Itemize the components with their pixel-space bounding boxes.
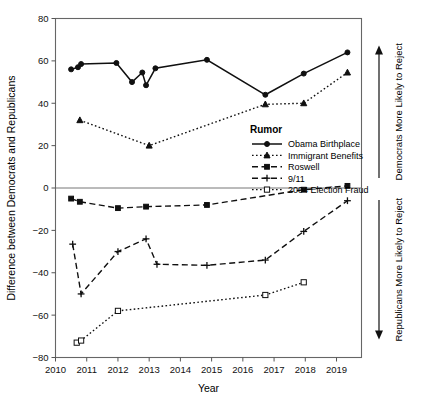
legend-entry[interactable]: Obama Birthplace bbox=[252, 139, 360, 149]
x-tick-label: 2017 bbox=[264, 364, 285, 375]
data-point-marker bbox=[265, 164, 270, 169]
data-point-marker bbox=[153, 66, 158, 71]
y-tick-label: 60 bbox=[38, 55, 49, 66]
upper-arrow-label: Democrats More Likely to Reject bbox=[393, 43, 404, 181]
data-point-marker bbox=[301, 280, 306, 285]
x-tick-label: 2013 bbox=[139, 364, 160, 375]
data-point-marker bbox=[204, 57, 209, 62]
y-tick-label: 0 bbox=[43, 182, 48, 193]
data-point-marker bbox=[140, 70, 145, 75]
series-immigrant-benefits bbox=[77, 69, 351, 148]
y-tick-label: −60 bbox=[32, 310, 48, 321]
data-point-marker bbox=[263, 92, 268, 97]
data-point-marker bbox=[69, 67, 74, 72]
y-tick-label: 80 bbox=[38, 13, 49, 24]
series-line bbox=[77, 282, 304, 342]
series-group bbox=[69, 50, 351, 345]
y-axis: 806040200−20−40−60−80 bbox=[32, 13, 55, 363]
legend: RumorObama BirthplaceImmigrant BenefitsR… bbox=[250, 124, 369, 195]
up-arrow-head bbox=[375, 46, 383, 55]
x-axis-title: Year bbox=[198, 382, 220, 394]
x-tick-label: 2014 bbox=[170, 364, 191, 375]
legend-entry[interactable]: 9/11 bbox=[252, 174, 305, 184]
legend-entry[interactable]: 2004 Election Fraud bbox=[252, 185, 369, 195]
legend-entry-label: Obama Birthplace bbox=[288, 139, 360, 149]
legend-entry[interactable]: Roswell bbox=[252, 162, 320, 172]
y-tick-label: 40 bbox=[38, 98, 49, 109]
down-arrow-head bbox=[375, 331, 383, 340]
data-point-marker bbox=[144, 204, 149, 209]
data-point-marker bbox=[79, 62, 84, 67]
series-obama-birthplace bbox=[69, 50, 350, 97]
x-tick-label: 2019 bbox=[326, 364, 347, 375]
legend-entry-label: 2004 Election Fraud bbox=[288, 185, 369, 195]
x-tick-label: 2016 bbox=[232, 364, 253, 375]
x-axis: 2010201120122013201420152016201720182019 bbox=[45, 358, 347, 375]
data-point-marker bbox=[69, 196, 74, 201]
series-line bbox=[80, 73, 348, 146]
x-tick-label: 2011 bbox=[77, 364, 97, 375]
y-tick-label: −80 bbox=[32, 352, 48, 363]
data-point-marker bbox=[262, 101, 268, 107]
data-point-marker bbox=[301, 71, 306, 76]
data-point-marker bbox=[264, 187, 269, 192]
data-point-marker bbox=[205, 203, 210, 208]
chart-container: 806040200−20−40−60−802010201120122013201… bbox=[0, 0, 421, 408]
series-2004-election-fraud bbox=[74, 280, 306, 346]
y-tick-label: 20 bbox=[38, 140, 49, 151]
legend-entry[interactable]: Immigrant Benefits bbox=[252, 151, 364, 161]
data-point-marker bbox=[345, 50, 350, 55]
lower-arrow-label: Republicans More Likely to Reject bbox=[393, 198, 404, 342]
x-tick-label: 2015 bbox=[201, 364, 222, 375]
data-point-marker bbox=[344, 69, 350, 75]
legend-entry-label: 9/11 bbox=[288, 174, 305, 184]
series-9-11 bbox=[69, 197, 351, 297]
x-tick-label: 2018 bbox=[295, 364, 316, 375]
data-point-marker bbox=[144, 83, 149, 88]
data-point-marker bbox=[263, 292, 268, 297]
data-point-marker bbox=[77, 199, 82, 204]
legend-title: Rumor bbox=[250, 124, 282, 135]
line-chart: 806040200−20−40−60−802010201120122013201… bbox=[0, 0, 421, 408]
data-point-marker bbox=[77, 117, 83, 123]
data-point-marker bbox=[130, 80, 135, 85]
x-tick-label: 2012 bbox=[107, 364, 128, 375]
data-point-marker bbox=[146, 142, 152, 148]
data-point-marker bbox=[114, 60, 119, 65]
data-point-marker bbox=[115, 308, 120, 313]
y-tick-label: −40 bbox=[32, 267, 48, 278]
legend-entry-label: Immigrant Benefits bbox=[288, 151, 364, 161]
legend-entry-label: Roswell bbox=[288, 162, 320, 172]
data-point-marker bbox=[116, 206, 121, 211]
x-tick-label: 2010 bbox=[45, 364, 66, 375]
y-tick-label: −20 bbox=[32, 225, 48, 236]
side-annotations: Democrats More Likely to RejectRepublica… bbox=[375, 43, 404, 342]
data-point-marker bbox=[79, 338, 84, 343]
data-point-marker bbox=[265, 142, 270, 147]
y-axis-title: Difference between Democrats and Republi… bbox=[5, 75, 17, 300]
